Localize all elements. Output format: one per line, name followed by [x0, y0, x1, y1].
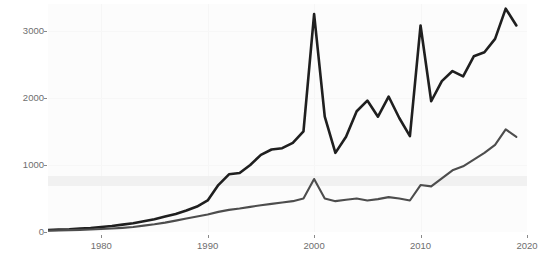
x-tick-mark-1990: [208, 235, 209, 238]
y-tick-mark-3000: [44, 31, 47, 32]
x-tick-label-2020: 2020: [516, 240, 537, 251]
y-tick-label-3000: 3000: [0, 25, 44, 36]
x-tick-mark-2010: [421, 235, 422, 238]
x-tick-mark-2000: [314, 235, 315, 238]
x-tick-mark-2020: [527, 235, 528, 238]
y-tick-label-0: 0: [0, 226, 44, 237]
y-tick-label-2000: 2000: [0, 92, 44, 103]
x-tick-label-2000: 2000: [304, 240, 325, 251]
line-lower-series: [48, 129, 516, 230]
y-tick-mark-0: [44, 232, 47, 233]
x-tick-label-2010: 2010: [410, 240, 431, 251]
y-tick-mark-2000: [44, 98, 47, 99]
line-upper-series: [48, 9, 516, 230]
plot-panel: [48, 4, 527, 232]
y-tick-label-1000: 1000: [0, 159, 44, 170]
series-layer: [48, 4, 527, 232]
x-tick-mark-1980: [101, 235, 102, 238]
y-tick-mark-1000: [44, 165, 47, 166]
x-tick-label-1990: 1990: [197, 240, 218, 251]
x-tick-label-1980: 1980: [91, 240, 112, 251]
